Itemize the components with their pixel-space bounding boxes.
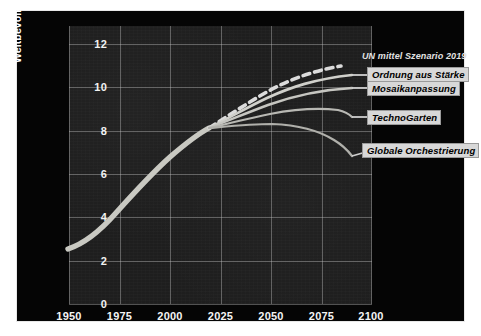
label-ordnung-aus-staerke: Ordnung aus Stärke — [367, 67, 469, 82]
label-mosaikanpassung: Mosaikanpassung — [367, 81, 460, 96]
gridline-x-2050 — [271, 26, 272, 304]
gridline-x-2075 — [322, 26, 323, 304]
x-tick-1950: 1950 — [47, 310, 91, 322]
gridline-x-1950 — [69, 26, 70, 304]
gridline-x-2025 — [221, 26, 222, 304]
plot-area — [69, 26, 372, 304]
label-un-mittel-szenario: UN mittel Szenario 2019 — [362, 51, 466, 61]
gridline-y-0 — [69, 304, 372, 305]
x-tick-2075: 2075 — [300, 310, 344, 322]
y-tick-2: 2 — [79, 255, 107, 267]
y-tick-8: 8 — [79, 125, 107, 137]
x-tick-2025: 2025 — [199, 310, 243, 322]
gridline-x-2000 — [170, 26, 171, 304]
x-axis-title: Jahr — [410, 323, 432, 335]
label-globale-orchestrierung: Globale Orchestrierung — [362, 143, 479, 158]
y-tick-10: 10 — [79, 81, 107, 93]
y-tick-12: 12 — [79, 38, 107, 50]
y-tick-4: 4 — [79, 211, 107, 223]
x-tick-2050: 2050 — [249, 310, 293, 322]
chart-figure: 12 10 8 6 4 2 0 1950 1975 2000 2025 2050… — [0, 0, 481, 336]
label-technogarten: TechnoGarten — [367, 110, 441, 125]
x-tick-2000: 2000 — [148, 310, 192, 322]
y-axis-title: Weltbevölkerung (Milliarden) — [11, 0, 23, 63]
y-tick-0: 0 — [79, 298, 107, 310]
x-tick-2100: 2100 — [349, 310, 393, 322]
y-tick-6: 6 — [79, 168, 107, 180]
gridline-x-1975 — [120, 26, 121, 304]
x-tick-1975: 1975 — [98, 310, 142, 322]
